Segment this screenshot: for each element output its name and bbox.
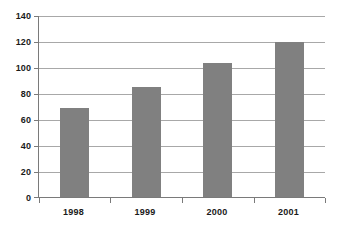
- x-axis-label-group: 1998 1999 2000 2001: [38, 207, 325, 221]
- bar-1998[interactable]: [60, 108, 89, 197]
- x-axis-tick-2: [182, 198, 183, 203]
- y-axis-tick-80: [34, 94, 39, 95]
- y-axis-tick-label: 100: [1, 63, 31, 73]
- y-axis-tick-label: 20: [1, 167, 31, 177]
- bar-2001[interactable]: [275, 42, 304, 197]
- y-axis-label-group: 140 120 100 80 60 40 20 0: [0, 16, 31, 198]
- y-axis-tick-60: [34, 120, 39, 121]
- x-axis-tick-label-2000: 2000: [181, 207, 253, 218]
- plot-area: [38, 16, 325, 198]
- bar-1999[interactable]: [132, 87, 161, 197]
- gridline-140: [39, 16, 325, 17]
- y-axis-tick-label: 80: [1, 89, 31, 99]
- x-axis-tick-label-1999: 1999: [109, 207, 181, 218]
- bar-chart: 140 120 100 80 60 40 20 0: [0, 0, 340, 236]
- y-axis-tick-20: [34, 172, 39, 173]
- y-axis-tick-40: [34, 146, 39, 147]
- y-axis-tick-140: [34, 16, 39, 17]
- y-axis-tick-label: 60: [1, 115, 31, 125]
- y-axis-tick-label: 140: [1, 11, 31, 21]
- x-axis-tick-label-1998: 1998: [38, 207, 109, 218]
- x-axis-tick-4: [325, 198, 326, 203]
- y-axis-tick-label: 0: [1, 193, 31, 203]
- y-axis-tick-label: 40: [1, 141, 31, 151]
- y-axis-tick-120: [34, 42, 39, 43]
- bar-2000[interactable]: [203, 63, 232, 197]
- y-axis-tick-label: 120: [1, 37, 31, 47]
- y-axis-tick-100: [34, 68, 39, 69]
- x-axis-tick-1: [110, 198, 111, 203]
- x-axis-tick-0: [39, 198, 40, 203]
- x-axis-tick-3: [254, 198, 255, 203]
- x-axis-tick-label-2001: 2001: [253, 207, 324, 218]
